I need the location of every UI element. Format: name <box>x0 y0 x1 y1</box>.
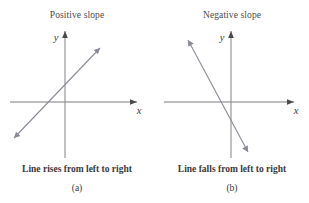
y-axis-label: y <box>219 32 225 43</box>
x-axis-negative <box>164 99 294 105</box>
positive-slope-segment <box>14 48 100 138</box>
slope-comparison-figure: Positive slope <box>0 0 309 203</box>
y-axis-label: y <box>53 32 59 43</box>
panel-negative-slope: Negative slope <box>155 0 309 203</box>
panel-title-positive: Positive slope <box>0 9 154 21</box>
positive-slope-line <box>14 48 100 138</box>
y-axis-arrowhead-icon <box>228 31 234 38</box>
y-axis-positive <box>62 31 68 158</box>
sublabel-b: (b) <box>155 182 309 194</box>
x-axis-positive <box>10 99 137 105</box>
x-axis-label: x <box>293 105 299 116</box>
caption-negative: Line falls from left to right <box>155 163 309 175</box>
x-axis-label: x <box>136 105 142 116</box>
negative-slope-graph: y x <box>155 26 309 162</box>
panel-positive-slope: Positive slope <box>0 0 154 203</box>
negative-slope-line <box>188 40 248 152</box>
positive-slope-graph: y x <box>0 26 154 162</box>
y-axis-negative <box>228 31 234 158</box>
plot-positive-slope: y x <box>0 26 154 162</box>
x-axis-arrowhead-icon <box>130 99 137 105</box>
plot-negative-slope: y x <box>155 26 309 162</box>
caption-positive: Line rises from left to right <box>0 163 154 175</box>
x-axis-arrowhead-icon <box>287 99 294 105</box>
negative-slope-segment <box>188 40 248 152</box>
y-axis-arrowhead-icon <box>62 31 68 38</box>
sublabel-a: (a) <box>0 182 154 194</box>
panel-title-negative: Negative slope <box>155 9 309 21</box>
